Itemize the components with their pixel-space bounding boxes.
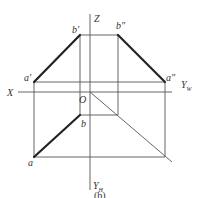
- point-a-dprime-label: a": [166, 72, 176, 83]
- point-b-label: b: [81, 118, 86, 129]
- point-b-dprime-label: b": [116, 20, 126, 31]
- segment-side-view: [118, 35, 165, 82]
- yw-axis-label: YW: [181, 79, 193, 92]
- origin-label: O: [79, 94, 86, 105]
- projection-diagram: X Z O YW YH a' b' b" a" b a (b): [0, 0, 201, 198]
- diagram-svg: X Z O YW YH a' b' b" a" b a (b): [0, 0, 201, 198]
- figure-caption: (b): [94, 190, 106, 198]
- segment-front-view: [34, 35, 80, 82]
- point-a-label: a: [28, 157, 33, 168]
- z-axis-label: Z: [94, 13, 100, 24]
- point-b-prime-label: b': [72, 24, 80, 35]
- miter-line-45: [90, 92, 172, 162]
- point-a-prime-label: a': [24, 72, 32, 83]
- segment-top-view: [34, 115, 80, 157]
- x-axis-label: X: [6, 87, 14, 98]
